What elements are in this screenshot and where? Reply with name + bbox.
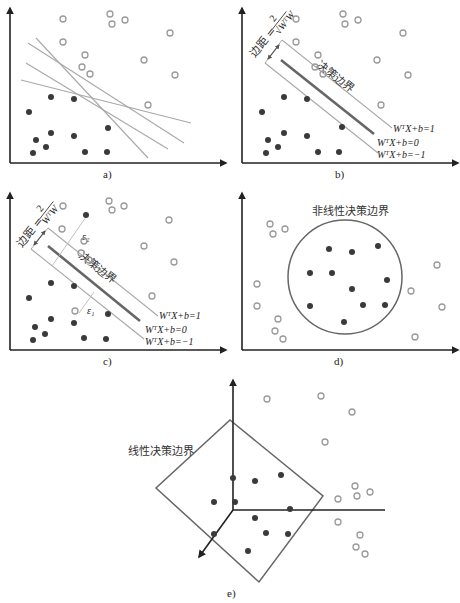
caption-b: b) — [335, 168, 345, 181]
svm-figure: a) 边距 = 2 √WᵀW 决策边界 — [0, 0, 460, 603]
equation-minus: WᵀX+b=−1 — [145, 336, 194, 347]
slack-epsilon-1: ε₁ — [87, 305, 94, 316]
panel-c: 边距 = 2 WᵀW 决策边界 ε₂ ε₁ WᵀX+b=1 WᵀX+b=0 Wᵀ… — [9, 193, 226, 368]
boundary-label: 非线性决策边界 — [312, 204, 389, 218]
hollow-points — [293, 11, 411, 108]
equation-minus: WᵀX+b=−1 — [377, 149, 426, 160]
svg-text:WᵀW: WᵀW — [39, 202, 61, 226]
margin-arrow — [268, 45, 279, 59]
panel-b: 边距 = 2 √WᵀW 决策边界 WᵀX+b=1 WᵀX+b=0 WᵀX+b=−… — [242, 0, 458, 181]
filled-points — [211, 472, 293, 554]
filled-points — [307, 243, 390, 325]
caption-a: a) — [103, 168, 112, 181]
caption-d: d) — [334, 355, 344, 368]
caption-e: e) — [227, 587, 236, 600]
equation-plus: WᵀX+b=1 — [159, 310, 201, 321]
slack-epsilon-2: ε₂ — [82, 231, 90, 242]
filled-points — [259, 94, 345, 156]
filled-points — [26, 212, 111, 343]
panel-e: 线性决策边界 e) — [128, 380, 385, 600]
hollow-points — [59, 198, 177, 314]
boundary-label: 决策边界 — [76, 248, 119, 286]
caption-c: c) — [103, 355, 112, 368]
candidate-boundaries — [21, 38, 191, 158]
margin-label: 边距 = 2 √WᵀW — [242, 0, 297, 62]
hollow-points — [60, 11, 178, 108]
hollow-points — [254, 221, 445, 342]
boundary-label: 线性决策边界 — [128, 444, 194, 458]
equation-zero: WᵀX+b=0 — [377, 137, 419, 148]
nonlinear-boundary-circle — [288, 220, 402, 334]
panel-d: 非线性决策边界 d) — [242, 193, 458, 368]
panel-a: a) — [10, 8, 226, 181]
filled-points — [26, 94, 111, 156]
equation-zero: WᵀX+b=0 — [145, 324, 187, 335]
equation-plus: WᵀX+b=1 — [393, 123, 435, 134]
